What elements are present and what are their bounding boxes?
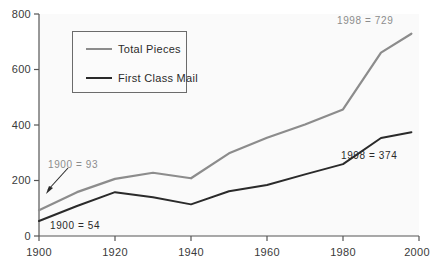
annotation-total-start: 1900 = 93 <box>48 159 98 170</box>
annotation-first-end: 1998 = 374 <box>341 150 397 161</box>
y-axis-tick-label: 400 <box>0 119 31 131</box>
y-axis-tick-label: 0 <box>0 230 31 242</box>
x-axis-tick-label: 2000 <box>392 246 434 258</box>
y-axis-tick-label: 800 <box>0 8 31 20</box>
x-axis-tick-label: 1940 <box>166 246 216 258</box>
legend-label-first-class-mail: First Class Mail <box>118 72 198 84</box>
legend-item-total-pieces: Total Pieces <box>86 43 181 55</box>
annotation-arrow-total-start <box>46 168 68 194</box>
x-axis-tick-label: 1960 <box>242 246 292 258</box>
series-line-first-class-mail <box>39 132 411 221</box>
legend-item-first-class-mail: First Class Mail <box>86 72 198 84</box>
y-axis-tick-label: 600 <box>0 63 31 75</box>
legend-label-total-pieces: Total Pieces <box>118 43 181 55</box>
x-axis-tick-label: 1900 <box>14 246 64 258</box>
x-axis-tick-label: 1980 <box>318 246 368 258</box>
annotation-first-start: 1900 = 54 <box>50 220 100 231</box>
legend-swatch-total-pieces <box>86 48 112 50</box>
annotation-total-end: 1998 = 729 <box>337 15 393 26</box>
legend-swatch-first-class-mail <box>86 77 112 79</box>
y-axis-tick-label: 200 <box>0 174 31 186</box>
x-axis-tick-label: 1920 <box>90 246 140 258</box>
